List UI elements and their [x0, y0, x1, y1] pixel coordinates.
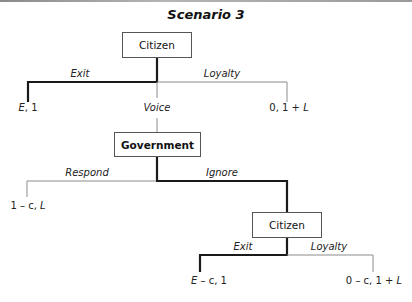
payoff-rest: 0 – c, 1 + — [346, 275, 397, 286]
node-government: Government — [114, 132, 201, 157]
payoff-loyalty-2: 0 – c, 1 + L — [346, 275, 402, 286]
branch-loyalty-1: Loyalty — [204, 68, 240, 79]
payoff-exit-1: E, 1 — [18, 102, 37, 113]
node-citizen-1: Citizen — [122, 32, 192, 58]
payoff-exit-2: E – c, 1 — [191, 275, 227, 286]
payoff-var: L — [40, 200, 46, 211]
payoff-rest: 1 – c, — [10, 200, 40, 211]
payoff-var: L — [397, 275, 403, 286]
branch-exit-1: Exit — [71, 68, 90, 79]
branch-ignore: Ignore — [206, 167, 238, 178]
game-tree-lines — [0, 0, 412, 302]
payoff-rest: 0, 1 + — [269, 102, 303, 113]
branch-loyalty-2: Loyalty — [311, 241, 347, 252]
payoff-rest: – c, 1 — [197, 275, 227, 286]
branch-exit-2: Exit — [234, 241, 253, 252]
payoff-respond: 1 – c, L — [10, 200, 45, 211]
branch-respond: Respond — [65, 167, 108, 178]
payoff-loyalty-1: 0, 1 + L — [269, 102, 308, 113]
branch-voice: Voice — [144, 102, 171, 113]
payoff-rest: , 1 — [25, 102, 38, 113]
payoff-var: L — [303, 102, 309, 113]
node-citizen-2: Citizen — [252, 212, 322, 238]
